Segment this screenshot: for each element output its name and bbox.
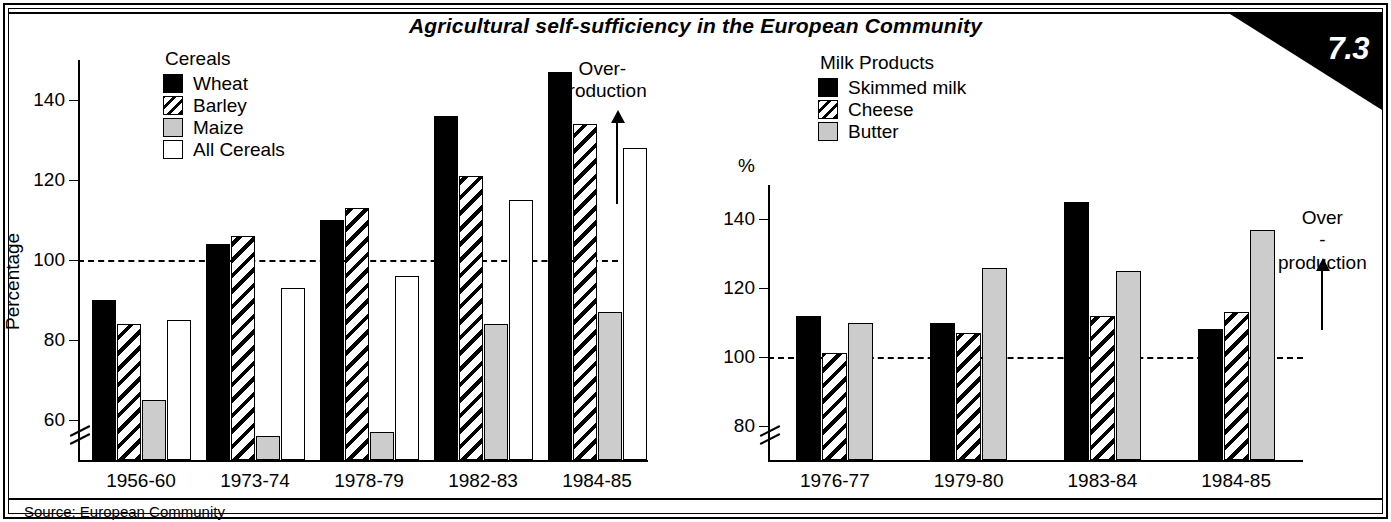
milk-category-label-1984-85: 1984-85 (1201, 470, 1271, 492)
bar-butter-1984-85 (1250, 230, 1275, 460)
cereals-overproduction-line1: Over- (558, 58, 647, 80)
bar-skimmed-milk-1976-77 (796, 316, 821, 460)
milk-tick-120 (759, 288, 768, 289)
bar-cheese-1984-85 (1224, 312, 1249, 460)
bar-wheat-1984-85 (548, 72, 572, 460)
milk-tick-label-80: 80 (734, 415, 755, 437)
milk-overproduction-arrow-icon (1321, 270, 1323, 330)
bar-all-cereals-1978-79 (395, 276, 419, 460)
cereals-overproduction-arrowhead-icon (611, 110, 625, 123)
legend-label-skimmed-milk: Skimmed milk (848, 78, 966, 97)
cereals-y-axis-title: Percentage (2, 233, 24, 330)
bar-cheese-1983-84 (1090, 316, 1115, 460)
bar-skimmed-milk-1979-80 (930, 323, 955, 461)
milk-tick-label-100: 100 (723, 346, 755, 368)
bar-cheese-1979-80 (956, 333, 981, 460)
page-title: Agricultural self-sufficiency in the Eur… (0, 14, 1391, 38)
figure-number-badge: 7.3 (1230, 14, 1382, 110)
cereals-tick-label-140: 140 (33, 89, 65, 111)
bar-maize-1984-85 (598, 312, 622, 460)
cereals-tick-label-60: 60 (44, 409, 65, 431)
legend-milk-products: Milk Products Skimmed milk Cheese Butter (818, 52, 966, 144)
bar-skimmed-milk-1984-85 (1198, 329, 1223, 460)
milk-overproduction-arrowhead-icon (1316, 258, 1330, 271)
bar-maize-1956-60 (142, 400, 166, 460)
legend-label-butter: Butter (848, 122, 899, 141)
cereals-category-label-1984-85: 1984-85 (562, 470, 632, 492)
legend-item-cheese: Cheese (818, 100, 966, 119)
legend-label-cheese: Cheese (848, 100, 914, 119)
chart-cereals: Percentage 6080100120140 1956-601973-741… (78, 60, 648, 460)
cereals-tick-100 (69, 260, 78, 261)
cereals-tick-label-80: 80 (44, 329, 65, 351)
chart-milk-products: % 80100120140 1976-771979-801983-841984-… (768, 185, 1303, 460)
cereals-overproduction-line2: production (558, 80, 647, 102)
bar-barley-1982-83 (459, 176, 483, 460)
milk-axis-break (759, 426, 781, 442)
milk-tick-100 (759, 357, 768, 358)
bar-maize-1973-74 (256, 436, 280, 460)
bar-maize-1978-79 (370, 432, 394, 460)
cereals-x-axis (78, 460, 648, 462)
swatch-butter-icon (818, 122, 838, 141)
milk-category-label-1976-77: 1976-77 (800, 470, 870, 492)
bar-all-cereals-1982-83 (509, 200, 533, 460)
bar-butter-1983-84 (1116, 271, 1141, 460)
milk-overproduction-line1: Over (1278, 207, 1367, 229)
bar-wheat-1978-79 (320, 220, 344, 460)
cereals-tick-60 (69, 420, 78, 421)
cereals-category-label-1978-79: 1978-79 (334, 470, 404, 492)
bar-cheese-1976-77 (822, 353, 847, 460)
bar-maize-1982-83 (484, 324, 508, 460)
bar-barley-1956-60 (117, 324, 141, 460)
legend-item-skimmed-milk: Skimmed milk (818, 78, 966, 97)
cereals-axis-break (69, 426, 91, 442)
cereals-tick-label-100: 100 (33, 249, 65, 271)
milk-tick-label-140: 140 (723, 208, 755, 230)
cereals-tick-80 (69, 340, 78, 341)
cereals-category-label-1982-83: 1982-83 (448, 470, 518, 492)
milk-tick-140 (759, 219, 768, 220)
milk-tick-80 (759, 426, 768, 427)
cereals-tick-120 (69, 180, 78, 181)
source-divider (9, 498, 1382, 500)
cereals-overproduction-arrow-icon (616, 122, 618, 204)
bar-all-cereals-1956-60 (167, 320, 191, 460)
cereals-category-label-1973-74: 1973-74 (220, 470, 290, 492)
bar-barley-1984-85 (573, 124, 597, 460)
figure-root: Agricultural self-sufficiency in the Eur… (0, 0, 1391, 522)
bar-skimmed-milk-1983-84 (1064, 202, 1089, 460)
legend-item-butter: Butter (818, 122, 966, 141)
bar-wheat-1982-83 (434, 116, 458, 460)
milk-tick-label-120: 120 (723, 277, 755, 299)
bar-wheat-1956-60 (92, 300, 116, 460)
bar-all-cereals-1984-85 (623, 148, 647, 460)
cereals-tick-140 (69, 100, 78, 101)
milk-category-label-1983-84: 1983-84 (1068, 470, 1138, 492)
swatch-cheese-icon (818, 100, 838, 119)
legend-milk-title: Milk Products (818, 52, 966, 74)
swatch-skimmed-milk-icon (818, 78, 838, 97)
bar-barley-1973-74 (231, 236, 255, 460)
badge-number: 7.3 (1327, 31, 1369, 67)
bar-all-cereals-1973-74 (281, 288, 305, 460)
bar-butter-1979-80 (982, 268, 1007, 461)
cereals-category-label-1956-60: 1956-60 (106, 470, 176, 492)
source-note: Source: European Community (24, 503, 225, 520)
bar-barley-1978-79 (345, 208, 369, 460)
milk-x-axis (768, 460, 1303, 462)
bar-wheat-1973-74 (206, 244, 230, 460)
bar-butter-1976-77 (848, 323, 873, 461)
milk-y-axis-title: % (738, 155, 755, 177)
milk-category-label-1979-80: 1979-80 (934, 470, 1004, 492)
milk-y-axis (768, 185, 770, 460)
cereals-overproduction-note: Over- production (558, 58, 647, 103)
cereals-tick-label-120: 120 (33, 169, 65, 191)
